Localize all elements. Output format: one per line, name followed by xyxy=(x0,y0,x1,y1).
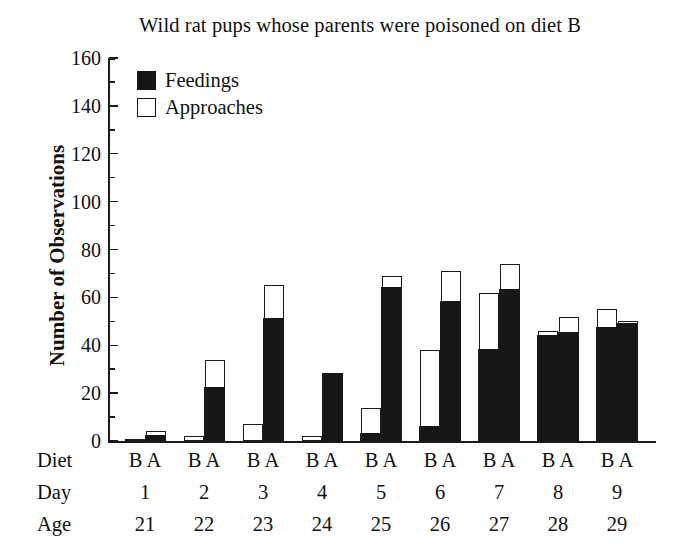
y-tick-minor xyxy=(109,177,115,178)
diet-label-A: A xyxy=(262,449,281,471)
bar-day-9-diet-B xyxy=(597,309,617,441)
y-tick-major xyxy=(109,297,118,298)
diet-label-B: B xyxy=(481,449,499,471)
y-tick-major xyxy=(109,345,118,346)
chart-figure: Wild rat pups whose parents were poisone… xyxy=(0,0,695,558)
bar-day-8-diet-B xyxy=(538,331,558,441)
bar-day-8-diet-A xyxy=(559,317,579,441)
y-tick-major xyxy=(109,249,118,250)
y-tick-major xyxy=(109,201,118,202)
bar-day-3-diet-A xyxy=(264,285,284,441)
axis-row-title-diet: Diet xyxy=(37,449,72,472)
y-tick-label: 140 xyxy=(71,94,101,117)
y-tick-label: 60 xyxy=(81,286,101,309)
bar-day-2-diet-B xyxy=(184,436,204,441)
bar-feedings-segment xyxy=(617,323,638,442)
day-cell-day-9: 9 xyxy=(577,481,657,504)
diet-label-A: A xyxy=(557,449,576,471)
bar-feedings-segment xyxy=(381,287,402,442)
y-tick-label: 40 xyxy=(81,334,101,357)
bar-day-1-diet-A xyxy=(146,431,166,441)
diet-label-A: A xyxy=(616,449,635,471)
y-tick-major xyxy=(109,392,118,393)
diet-label-A: A xyxy=(439,449,458,471)
y-tick-minor xyxy=(109,368,115,369)
y-tick-label: 80 xyxy=(81,238,101,261)
y-tick-minor xyxy=(109,321,115,322)
diet-label-B: B xyxy=(245,449,263,471)
y-tick-label: 100 xyxy=(71,190,101,213)
bar-feedings-segment xyxy=(537,335,558,442)
age-cell-day-9: 29 xyxy=(577,513,657,536)
bar-feedings-segment xyxy=(440,301,461,441)
legend-item-approaches: Approaches xyxy=(137,94,263,121)
bar-feedings-segment xyxy=(499,289,520,441)
legend-item-feedings: Feedings xyxy=(137,67,263,94)
bar-day-4-diet-A xyxy=(323,374,343,441)
diet-label-A: A xyxy=(380,449,399,471)
axis-row-title-age: Age xyxy=(37,513,71,536)
bar-day-5-diet-B xyxy=(361,408,381,442)
y-tick-label: 20 xyxy=(81,382,101,405)
diet-label-B: B xyxy=(422,449,440,471)
bar-feedings-segment xyxy=(145,435,166,441)
bar-day-6-diet-B xyxy=(420,350,440,441)
bar-day-9-diet-A xyxy=(618,321,638,441)
diet-label-A: A xyxy=(498,449,517,471)
bar-feedings-segment xyxy=(360,433,381,442)
bar-feedings-segment xyxy=(596,327,617,441)
diet-label-B: B xyxy=(363,449,381,471)
y-tick-minor xyxy=(109,225,115,226)
diet-label-A: A xyxy=(144,449,163,471)
axis-row-title-day: Day xyxy=(37,481,71,504)
legend-label-feedings: Feedings xyxy=(165,69,239,92)
y-tick-major xyxy=(109,153,118,154)
bar-feedings-segment xyxy=(322,373,343,441)
chart-legend: Feedings Approaches xyxy=(137,67,263,121)
y-axis-title: Number of Observations xyxy=(45,106,70,406)
y-tick-major xyxy=(109,440,118,441)
diet-label-B: B xyxy=(304,449,322,471)
bar-day-4-diet-B xyxy=(302,436,322,441)
y-tick-major xyxy=(109,57,118,58)
diet-label-B: B xyxy=(599,449,617,471)
diet-cell-day-9: BA xyxy=(577,449,657,472)
y-tick-minor xyxy=(109,81,115,82)
diet-label-B: B xyxy=(540,449,558,471)
open-square-icon xyxy=(137,98,156,117)
y-tick-label: 160 xyxy=(71,47,101,70)
bar-day-1-diet-B xyxy=(125,439,145,441)
diet-label-A: A xyxy=(203,449,222,471)
bar-feedings-segment xyxy=(204,387,225,441)
bar-feedings-segment xyxy=(558,332,579,441)
y-tick-major xyxy=(109,105,118,106)
chart-title: Wild rat pups whose parents were poisone… xyxy=(60,14,660,37)
filled-square-icon xyxy=(137,71,156,90)
bar-day-7-diet-B xyxy=(479,293,499,441)
diet-label-B: B xyxy=(186,449,204,471)
bar-feedings-segment xyxy=(263,318,284,441)
bar-feedings-segment xyxy=(478,349,499,441)
axis-row-day: Day 123456789 xyxy=(0,481,695,513)
diet-label-A: A xyxy=(321,449,340,471)
bar-day-7-diet-A xyxy=(500,264,520,441)
y-tick-minor xyxy=(109,416,115,417)
axis-row-diet: Diet BABABABABABABABABA xyxy=(0,449,695,481)
y-tick-minor xyxy=(109,273,115,274)
diet-label-B: B xyxy=(127,449,145,471)
y-tick-minor xyxy=(109,129,115,130)
x-axis-label-table: Diet BABABABABABABABABA Day 123456789 Ag… xyxy=(0,449,695,545)
bar-day-3-diet-B xyxy=(243,424,263,441)
bar-feedings-segment xyxy=(419,426,440,442)
axis-row-age: Age 212223242526272829 xyxy=(0,513,695,545)
y-tick-label: 120 xyxy=(71,142,101,165)
bar-day-2-diet-A xyxy=(205,360,225,441)
legend-label-approaches: Approaches xyxy=(165,96,263,119)
bar-day-6-diet-A xyxy=(441,271,461,441)
bar-day-5-diet-A xyxy=(382,276,402,441)
